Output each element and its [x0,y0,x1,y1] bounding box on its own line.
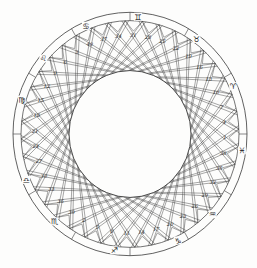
cell-number: 17 [153,226,160,232]
zigzag-line [227,147,238,154]
band-tick [72,29,76,36]
band-tick [224,73,231,77]
aries-sign-icon: ♈ [230,82,237,91]
zigzag-line [208,197,221,198]
zigzag-line [212,63,215,76]
zodiac-ring-diagram: 4037343128252219161310741383532292623201… [0,0,257,268]
inner-circle [69,71,191,198]
cell-number: 1 [223,134,226,140]
cell-number: 24 [31,143,39,149]
aquarius-sign-icon: ♒ [209,210,216,219]
cell-number: 5 [96,224,99,230]
diagram-canvas: 4037343128252219161310741383532292623201… [0,0,257,268]
cell-number: 4 [222,119,226,125]
cell-number: 14 [138,229,145,235]
cell-number: 13 [205,76,212,82]
cell-number: 35 [216,165,223,171]
zigzag-line [21,130,31,139]
cell-number: 40 [86,41,94,47]
cell-number: 28 [144,34,152,40]
cell-number: 26 [190,203,198,209]
capricorn-sign-icon: ♑ [174,237,181,246]
zigzag-line [127,237,135,247]
cancer-sign-icon: ♋ [82,22,89,31]
cell-number: 30 [41,173,48,179]
cell-number: 23 [179,213,187,219]
zigzag-line [45,192,48,205]
band-tick [72,232,76,239]
cell-number: 22 [172,45,180,51]
band-tick [185,29,189,36]
cell-number: 20 [166,221,174,227]
cell-number: 18 [33,112,40,118]
zigzag-line [190,39,191,52]
pisces-sign-icon: ♓ [238,146,245,155]
zigzag-line [69,215,70,228]
band-tick [224,191,231,195]
zigzag-line [142,21,149,33]
cell-number: 33 [48,186,55,192]
cell-number: 27 [34,158,42,164]
inner-blank-circle [69,71,191,198]
cell-number: 21 [31,128,39,134]
zigzag-line [185,219,197,222]
gemini-sign-icon: ♊ [134,13,141,22]
cell-number: 29 [201,192,209,198]
zigzag-line [22,114,33,121]
virgo-sign-icon: ♍ [18,96,25,105]
cell-number: 39 [68,209,75,215]
zigzag-line [229,129,239,138]
cell-number: 12 [44,83,51,89]
cell-number: 19 [185,53,192,59]
cell-number: 2 [81,217,85,223]
libra-sign-icon: ♎ [22,176,29,185]
cell-number: 38 [220,150,227,156]
cell-number: 34 [115,33,122,39]
leo-sign-icon: ♌ [40,54,47,63]
band-tick [29,73,36,77]
cell-number: 15 [37,97,44,103]
cell-number: 32 [210,179,217,185]
cell-number: 7 [220,104,224,110]
sagittarius-sign-icon: ♐ [111,246,118,255]
scorpio-sign-icon: ♏ [51,217,59,226]
cell-number: 31 [130,32,137,38]
zigzag-line [125,21,133,31]
cell-number: 25 [158,38,166,44]
band-tick [29,191,36,195]
zigzag-line [39,71,52,72]
zigzag-line [111,235,118,247]
cell-number: 36 [57,198,64,204]
band-tick [185,232,189,239]
cell-number: 37 [101,36,108,42]
cell-number: 10 [213,89,220,95]
zigzag-line [62,45,74,48]
cell-number: 16 [196,64,203,70]
cell-number: 11 [123,230,130,236]
taurus-sign-icon: ♉ [193,35,200,44]
